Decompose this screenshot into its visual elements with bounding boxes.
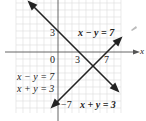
x-axis-arrow-icon [133,50,140,55]
y-tick-3: 3 [50,28,55,38]
line-x-minus-y-eq-7 [52,38,121,107]
system-equation-1: x − y = 7 [17,72,54,82]
y-tick-neg7: −7 [61,100,72,110]
x-tick-7: 7 [104,55,109,65]
equation-label-x-plus-y: x + y = 3 [80,100,116,110]
equation-label-x-minus-y: x − y = 7 [78,28,114,38]
graph-canvas [0,0,146,121]
system-equation-2: x + y = 3 [17,84,54,94]
pencil-mark-icon [131,26,137,31]
origin-label: 0 [50,55,55,65]
x-axis-label: x [140,47,144,56]
x-tick-3: 3 [75,55,80,65]
